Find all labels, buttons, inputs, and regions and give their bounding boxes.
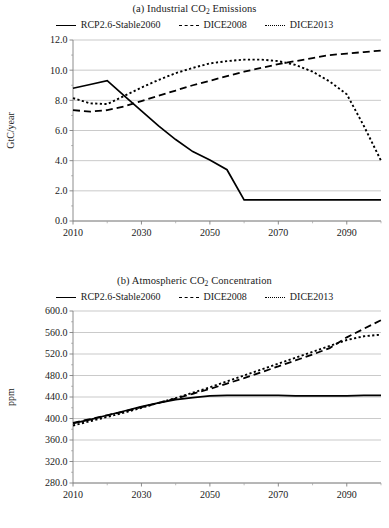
y-tick-label: 10.0 — [50, 65, 68, 76]
y-tick-label: 480.0 — [45, 370, 68, 381]
x-tick-label: 2070 — [268, 489, 288, 500]
series-line-solid — [73, 395, 381, 423]
y-tick-label: 560.0 — [45, 327, 68, 338]
y-tick-label: 12.0 — [50, 34, 68, 45]
x-tick-label: 2030 — [131, 227, 151, 238]
legend-item-dice2008-b: DICE2008 — [179, 291, 247, 303]
chart-panel-a: (a) Industrial CO2 Emissions RCP2.6-Stab… — [0, 0, 389, 272]
series-line-dashed — [73, 51, 381, 112]
chart-svg-a: 0.02.04.06.08.010.012.020102030205020702… — [0, 31, 389, 246]
chart-panel-b: (b) Atmospheric CO2 Concentration RCP2.6… — [0, 272, 389, 528]
y-tick-label: 280.0 — [45, 477, 68, 488]
figure-container: (a) Industrial CO2 Emissions RCP2.6-Stab… — [0, 0, 389, 528]
panel-a-title: (a) Industrial CO2 Emissions — [0, 0, 389, 16]
legend-label-dice2008: DICE2008 — [204, 291, 247, 303]
y-tick-label: 520.0 — [45, 348, 68, 359]
y-tick-label: 4.0 — [55, 155, 68, 166]
y-tick-label: 600.0 — [45, 305, 68, 316]
y-tick-label: 0.0 — [55, 215, 68, 226]
x-tick-label: 2090 — [337, 227, 357, 238]
legend-item-dice2013-a: DICE2013 — [265, 19, 333, 31]
y-tick-label: 440.0 — [45, 391, 68, 402]
legend-label-rcp26: RCP2.6-Stable2060 — [81, 291, 161, 303]
legend-item-dice2013-b: DICE2013 — [265, 291, 333, 303]
legend-panel-b: RCP2.6-Stable2060 DICE2008 DICE2013 — [0, 291, 389, 303]
legend-swatch-solid-icon — [56, 297, 76, 298]
legend-item-rcp26-a: RCP2.6-Stable2060 — [56, 19, 161, 31]
chart-svg-b: 280.0320.0360.0400.0440.0480.0520.0560.0… — [0, 303, 389, 508]
series-line-dashed — [73, 320, 381, 423]
y-tick-label: 2.0 — [55, 185, 68, 196]
figure-bottom-caption-cropped — [0, 521, 389, 528]
y-tick-label: 360.0 — [45, 434, 68, 445]
plot-area-a: 0.02.04.06.08.010.012.020102030205020702… — [0, 31, 389, 246]
panel-a-title-suffix: Emissions — [210, 3, 257, 14]
panel-b-title: (b) Atmospheric CO2 Concentration — [0, 272, 389, 288]
y-tick-label: 320.0 — [45, 456, 68, 467]
legend-swatch-solid-icon — [56, 25, 76, 26]
legend-swatch-dashed-icon — [179, 297, 199, 298]
legend-swatch-dotted-icon — [265, 25, 285, 26]
legend-item-dice2008-a: DICE2008 — [179, 19, 247, 31]
x-tick-label: 2070 — [268, 227, 288, 238]
plot-area-b: 280.0320.0360.0400.0440.0480.0520.0560.0… — [0, 303, 389, 508]
legend-swatch-dotted-icon — [265, 297, 285, 298]
series-line-dotted — [73, 60, 381, 161]
panel-b-title-suffix: Concentration — [208, 275, 272, 286]
legend-item-rcp26-b: RCP2.6-Stable2060 — [56, 291, 161, 303]
y-tick-label: 400.0 — [45, 413, 68, 424]
y-axis-title: ppm — [5, 388, 16, 406]
legend-label-dice2008: DICE2008 — [204, 19, 247, 31]
x-tick-label: 2050 — [200, 489, 220, 500]
x-tick-label: 2010 — [63, 227, 83, 238]
legend-swatch-dashed-icon — [179, 25, 199, 26]
y-axis-title: GtC/year — [5, 112, 16, 149]
panel-b-title-subscript: 2 — [205, 279, 209, 288]
y-tick-label: 8.0 — [55, 95, 68, 106]
x-tick-label: 2090 — [337, 489, 357, 500]
legend-panel-a: RCP2.6-Stable2060 DICE2008 DICE2013 — [0, 19, 389, 31]
panel-a-title-prefix: (a) Industrial CO — [132, 3, 205, 14]
panel-b-title-prefix: (b) Atmospheric CO — [117, 275, 205, 286]
x-tick-label: 2010 — [63, 489, 83, 500]
panel-a-title-subscript: 2 — [206, 7, 210, 16]
x-tick-label: 2030 — [131, 489, 151, 500]
series-line-solid — [73, 81, 381, 200]
x-tick-label: 2050 — [200, 227, 220, 238]
y-tick-label: 6.0 — [55, 125, 68, 136]
legend-label-dice2013: DICE2013 — [290, 291, 333, 303]
legend-label-dice2013: DICE2013 — [290, 19, 333, 31]
legend-label-rcp26: RCP2.6-Stable2060 — [81, 19, 161, 31]
